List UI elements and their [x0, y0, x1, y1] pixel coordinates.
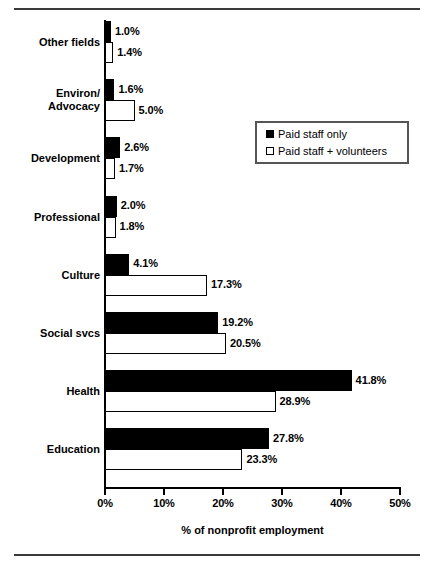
x-tick-2: [222, 489, 224, 495]
category-label-line: Education: [4, 443, 100, 456]
x-tick-label-1: 10%: [144, 497, 184, 509]
legend-item-paid-staff-only: Paid staff only: [266, 128, 347, 140]
bar-value-s1-7: 23.3%: [246, 453, 277, 465]
bar-value-s1-2: 1.7%: [119, 162, 144, 174]
filled-square-icon: [266, 130, 274, 138]
bar-value-s0-6: 41.8%: [356, 374, 387, 386]
x-tick-1: [163, 489, 165, 495]
bar-s0-4: [105, 254, 129, 275]
chart-legend: Paid staff only Paid staff + volunteers: [255, 121, 409, 164]
x-tick-4: [340, 489, 342, 495]
bar-s1-2: [105, 158, 115, 179]
bar-s1-1: [105, 100, 135, 121]
legend-label-1: Paid staff + volunteers: [278, 145, 387, 157]
bar-value-s0-4: 4.1%: [133, 257, 158, 269]
bar-value-s0-1: 1.6%: [118, 83, 143, 95]
outlined-square-icon: [266, 147, 274, 155]
x-tick-label-3: 30%: [262, 497, 302, 509]
bar-value-s0-5: 19.2%: [222, 316, 253, 328]
bar-s1-7: [105, 449, 242, 470]
bar-s0-1: [105, 79, 114, 100]
category-label-line: Health: [4, 385, 100, 398]
category-label-line: Professional: [4, 211, 100, 224]
bar-value-s0-0: 1.0%: [115, 25, 140, 37]
bar-s1-3: [105, 217, 116, 238]
bar-s0-5: [105, 312, 218, 333]
x-tick-0: [104, 489, 106, 495]
nonprofit-employment-bar-chart: 0%10%20%30%40%50% % of nonprofit employm…: [0, 0, 432, 562]
category-label-3: Professional: [4, 211, 100, 224]
x-tick-label-2: 20%: [203, 497, 243, 509]
x-tick-5: [399, 489, 401, 495]
bar-value-s0-2: 2.6%: [124, 141, 149, 153]
category-label-line: Social svcs: [4, 327, 100, 340]
category-label-line: Advocacy: [4, 100, 100, 113]
x-axis-title: % of nonprofit employment: [104, 524, 401, 536]
bar-value-s1-4: 17.3%: [211, 278, 242, 290]
category-label-6: Health: [4, 385, 100, 398]
bar-value-s1-1: 5.0%: [139, 104, 164, 116]
bar-s0-2: [105, 137, 120, 158]
category-label-4: Culture: [4, 269, 100, 282]
x-tick-label-0: 0%: [85, 497, 125, 509]
x-tick-label-5: 50%: [380, 497, 420, 509]
bar-s1-6: [105, 391, 276, 412]
x-tick-label-4: 40%: [321, 497, 361, 509]
category-label-5: Social svcs: [4, 327, 100, 340]
category-label-line: Environ/: [4, 87, 100, 100]
category-label-line: Culture: [4, 269, 100, 282]
category-label-2: Development: [4, 152, 100, 165]
bar-s0-6: [105, 370, 352, 391]
x-axis-line: [104, 487, 401, 489]
category-label-1: Environ/Advocacy: [4, 87, 100, 113]
bar-s1-4: [105, 275, 207, 296]
category-label-0: Other fields: [4, 36, 100, 49]
legend-item-paid-staff-plus-volunteers: Paid staff + volunteers: [266, 145, 387, 157]
x-tick-3: [281, 489, 283, 495]
bar-value-s1-0: 1.4%: [117, 46, 142, 58]
legend-label-0: Paid staff only: [278, 128, 347, 140]
bar-value-s0-7: 27.8%: [273, 432, 304, 444]
bar-value-s0-3: 2.0%: [121, 199, 146, 211]
category-label-7: Education: [4, 443, 100, 456]
bar-value-s1-5: 20.5%: [230, 337, 261, 349]
bar-s0-3: [105, 196, 117, 217]
bar-value-s1-6: 28.9%: [280, 395, 311, 407]
category-label-line: Development: [4, 152, 100, 165]
category-label-line: Other fields: [4, 36, 100, 49]
bar-s1-5: [105, 333, 226, 354]
bar-s0-0: [105, 21, 111, 42]
bar-s0-7: [105, 428, 269, 449]
bar-value-s1-3: 1.8%: [120, 220, 145, 232]
bar-s1-0: [105, 42, 113, 63]
